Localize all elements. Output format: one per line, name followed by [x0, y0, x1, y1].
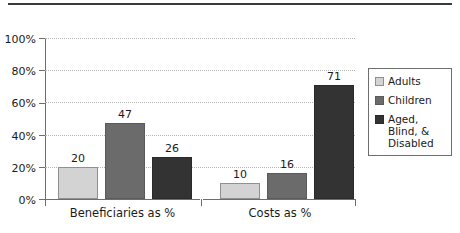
- y-tick-label-80: 80%: [0, 65, 36, 78]
- y-tick-label-40: 40%: [0, 130, 36, 143]
- gridline-40: [45, 135, 355, 136]
- bar-value-beneficiaries-children: 47: [105, 108, 145, 121]
- x-axis-tick-start: [45, 199, 46, 206]
- x-axis-tick-middle: [201, 199, 202, 206]
- y-tick-label-20: 20%: [0, 162, 36, 175]
- bar-costs-abd[interactable]: [314, 85, 354, 199]
- bar-value-beneficiaries-abd: 26: [152, 142, 192, 155]
- bar-beneficiaries-children[interactable]: [105, 123, 145, 199]
- gridline-80: [45, 70, 355, 71]
- plot-area: 20 47 26 10 16 71: [45, 38, 355, 199]
- y-tick-label-100: 100%: [0, 33, 36, 46]
- legend-swatch-icon-adults: [375, 77, 384, 86]
- legend-item-children[interactable]: Children: [375, 94, 446, 106]
- y-tick-label-60: 60%: [0, 97, 36, 110]
- gridline-60: [45, 102, 355, 103]
- bar-value-beneficiaries-adults: 20: [58, 152, 98, 165]
- y-tick-label-0: 0%: [0, 194, 36, 207]
- group-label-beneficiaries: Beneficiaries as %: [55, 206, 190, 220]
- top-divider-rule: [8, 3, 452, 5]
- legend-item-aged-blind-disabled[interactable]: Aged, Blind, & Disabled: [375, 113, 446, 149]
- legend-item-adults[interactable]: Adults: [375, 75, 446, 87]
- legend-swatch-icon-aged-blind-disabled: [375, 115, 384, 124]
- legend-label-adults: Adults: [388, 75, 421, 87]
- bar-beneficiaries-abd[interactable]: [152, 157, 192, 199]
- bar-value-costs-children: 16: [267, 158, 307, 171]
- bar-beneficiaries-adults[interactable]: [58, 167, 98, 199]
- chart-legend: Adults Children Aged, Blind, & Disabled: [368, 68, 452, 156]
- legend-label-aged-blind-disabled: Aged, Blind, & Disabled: [388, 113, 446, 149]
- bar-costs-children[interactable]: [267, 173, 307, 199]
- bar-chart-figure: 100% 80% 60% 40% 20% 0% 20 47 26 10 16 7…: [0, 0, 460, 233]
- bar-value-costs-abd: 71: [314, 70, 354, 83]
- group-label-costs: Costs as %: [215, 206, 345, 220]
- x-axis-segment-2: [203, 199, 355, 200]
- bar-value-costs-adults: 10: [220, 168, 260, 181]
- x-axis-segment-1: [45, 199, 200, 200]
- legend-label-children: Children: [388, 94, 432, 106]
- x-axis-tick-end: [355, 199, 356, 206]
- bar-costs-adults[interactable]: [220, 183, 260, 199]
- legend-swatch-icon-children: [375, 96, 384, 105]
- gridline-100: [45, 38, 355, 39]
